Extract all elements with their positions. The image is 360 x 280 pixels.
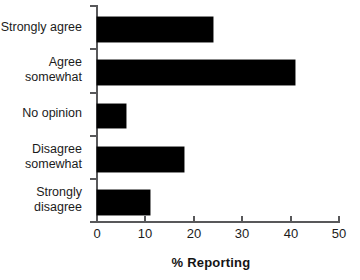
category-label: Disagree somewhat (25, 142, 82, 171)
y-axis-tick (90, 92, 97, 94)
category-label: Strongly disagree (34, 185, 82, 214)
x-axis-tick (193, 216, 195, 223)
x-axis-tick (338, 216, 340, 223)
x-axis-tick (241, 216, 243, 223)
plot-area: Strongly agree Agree somewhat No opinion… (0, 0, 360, 280)
bar (97, 147, 184, 172)
y-axis-tick (90, 48, 97, 50)
bar (97, 60, 295, 85)
bar (97, 104, 126, 128)
x-axis-title: % Reporting (0, 255, 360, 270)
y-axis-tick (90, 135, 97, 137)
bar (97, 17, 213, 42)
bar (97, 190, 150, 215)
y-axis-tick (90, 5, 97, 7)
x-axis-tick (144, 216, 146, 223)
x-axis-line (96, 221, 339, 223)
y-axis-tick (90, 178, 97, 180)
x-axis-tick (290, 216, 292, 223)
category-label: No opinion (22, 106, 82, 121)
category-label: Agree somewhat (25, 55, 82, 84)
x-tick-label: 40 (271, 226, 311, 241)
x-tick-label: 50 (319, 226, 359, 241)
x-tick-label: 30 (222, 226, 262, 241)
x-tick-label: 10 (125, 226, 165, 241)
x-axis-tick (96, 216, 98, 223)
x-tick-label: 20 (174, 226, 214, 241)
bar-chart-figure: Strongly agree Agree somewhat No opinion… (0, 0, 360, 280)
category-label: Strongly agree (1, 20, 82, 35)
x-tick-label: 0 (77, 226, 117, 241)
